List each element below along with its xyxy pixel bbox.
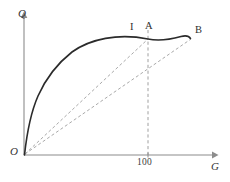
x-axis-label: G (211, 161, 219, 172)
ray-to-point-b (25, 39, 191, 154)
x-tick-label-100: 100 (137, 158, 152, 168)
point-label-b: B (195, 25, 202, 36)
x-axis-arrowhead (212, 152, 219, 159)
ray-to-point-a (25, 39, 148, 154)
point-label-a: A (145, 21, 153, 32)
point-label-i: I (130, 22, 134, 33)
y-axis-label: Q (18, 8, 26, 19)
origin-label: O (10, 146, 18, 157)
figure-canvas: Q G O I A B 100 (0, 0, 230, 182)
